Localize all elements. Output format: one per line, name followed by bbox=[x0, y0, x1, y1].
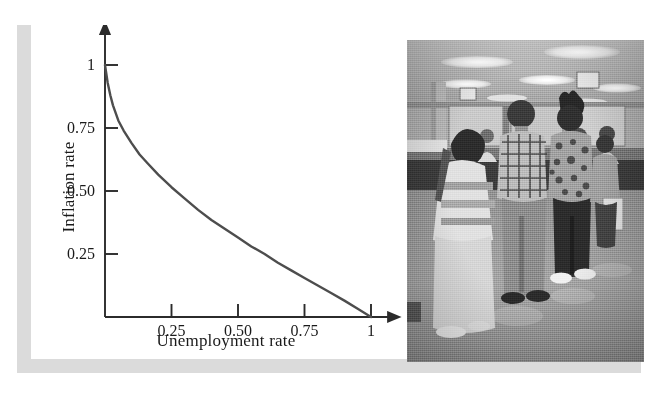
phillips-curve-line bbox=[105, 65, 371, 317]
figure-root: 10.750.500.25 0.250.500.751 Inflation ra… bbox=[0, 0, 671, 393]
y-axis-title: Inflation rate bbox=[59, 107, 79, 267]
phillips-curve-chart-panel: 10.750.500.25 0.250.500.751 Inflation ra… bbox=[31, 25, 407, 359]
x-axis-tick-marks bbox=[172, 304, 372, 317]
x-axis-title: Unemployment rate bbox=[61, 331, 391, 351]
decorative-shadow-band-left bbox=[17, 25, 31, 373]
unemployment-office-photograph bbox=[407, 40, 644, 362]
y-axis-tick-marks bbox=[105, 65, 118, 254]
y-axis-tick-label: 1 bbox=[31, 56, 95, 74]
photo-foreground-object bbox=[407, 302, 421, 322]
photograph-scene bbox=[407, 40, 644, 362]
photo-counter-paper bbox=[407, 140, 447, 152]
